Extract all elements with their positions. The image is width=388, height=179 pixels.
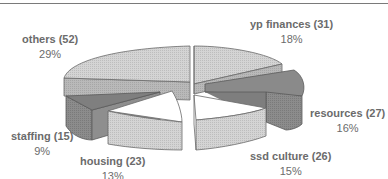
label-others-name: others (52) (22, 32, 78, 47)
label-yp-finances-name: yp finances (31) (250, 17, 333, 32)
chart-frame: others (52) 29% yp finances (31) 18% res… (0, 0, 388, 179)
label-resources-pct: 16% (310, 121, 385, 136)
label-ssd-culture-pct: 15% (250, 164, 331, 179)
label-resources: resources (27) 16% (310, 106, 385, 136)
label-yp-finances-pct: 18% (250, 32, 333, 47)
label-ssd-culture: ssd culture (26) 15% (250, 149, 331, 179)
label-housing-pct: 13% (80, 169, 145, 179)
label-others-pct: 29% (22, 47, 78, 62)
label-staffing-pct: 9% (11, 144, 73, 159)
label-yp-finances: yp finances (31) 18% (250, 17, 333, 47)
label-ssd-culture-name: ssd culture (26) (250, 149, 331, 164)
label-others: others (52) 29% (22, 32, 78, 62)
label-housing: housing (23) 13% (80, 154, 145, 179)
label-staffing-name: staffing (15) (11, 129, 73, 144)
label-staffing: staffing (15) 9% (11, 129, 73, 159)
label-resources-name: resources (27) (310, 106, 385, 121)
label-housing-name: housing (23) (80, 154, 145, 169)
